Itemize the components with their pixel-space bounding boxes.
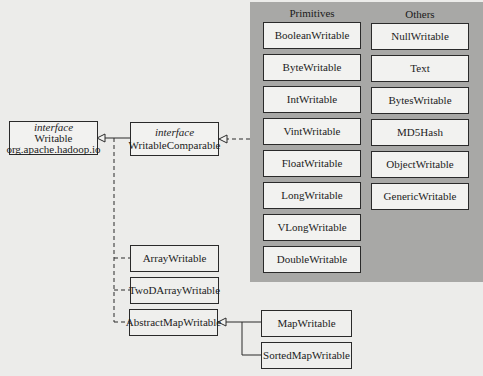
class-box-booleanwritable: BooleanWritable [263,22,361,49]
class-box-mapwritable: MapWritable [261,310,352,337]
class-box-abstractmapwritable: AbstractMapWritable [129,309,218,336]
package-name: org.apache.hadoop.io [6,144,100,155]
class-box-doublewritable: DoubleWritable [263,246,361,273]
class-box-genericwritable: GenericWritable [371,183,469,210]
primitives-group-title: Primitives [263,7,361,19]
writable-interface-box: interface Writable org.apache.hadoop.io [9,121,98,155]
stereotype-label: interface [155,127,194,138]
others-group-title: Others [371,8,469,20]
class-box-floatwritable: FloatWritable [263,150,361,177]
class-box-objectwritable: ObjectWritable [371,151,469,178]
class-name: Writable [34,133,72,144]
class-name: WritableComparable [129,140,221,151]
class-box-sortedmapwritable: SortedMapWritable [261,342,352,369]
class-box-vintwritable: VintWritable [263,118,361,145]
class-box-nullwritable: NullWritable [371,23,469,50]
class-box-vlongwritable: VLongWritable [263,214,361,241]
class-box-md5hash: MD5Hash [371,119,469,146]
class-box-text: Text [371,55,469,82]
stereotype-label: interface [34,122,73,133]
class-box-longwritable: LongWritable [263,182,361,209]
class-box-bytewritable: ByteWritable [263,54,361,81]
class-box-twodarraywritable: TwoDArrayWritable [130,277,219,304]
class-box-intwritable: IntWritable [263,86,361,113]
class-box-arraywritable: ArrayWritable [130,245,219,272]
writable-class-hierarchy-diagram: interface Writable org.apache.hadoop.io … [0,0,483,376]
writable-comparable-interface-box: interface WritableComparable [130,122,219,156]
class-box-byteswritable: BytesWritable [371,87,469,114]
